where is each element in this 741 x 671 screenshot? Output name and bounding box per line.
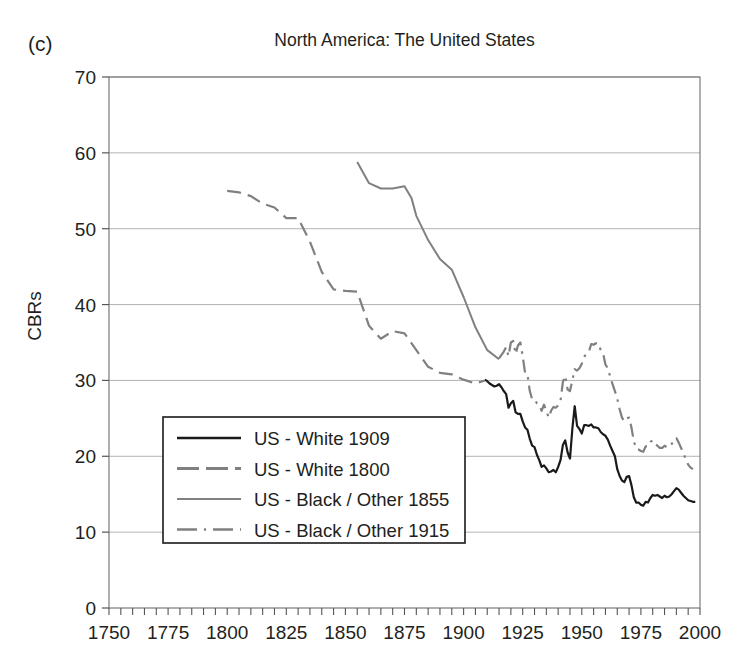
- x-tick-label: 1925: [502, 622, 544, 643]
- x-tick-label: 1875: [383, 622, 425, 643]
- line-chart: 010203040506070 175017751800182518501875…: [0, 0, 741, 671]
- series-line-3: [499, 341, 693, 469]
- y-tick-label: 20: [75, 446, 96, 467]
- x-tick-label: 1800: [206, 622, 248, 643]
- x-tick-label: 1775: [147, 622, 189, 643]
- legend-label-2: US - Black / Other 1855: [254, 489, 449, 510]
- x-tick-label: 1850: [324, 622, 366, 643]
- y-tick-label: 70: [75, 67, 96, 88]
- x-tick-label: 1825: [265, 622, 307, 643]
- x-tick-label: 1975: [620, 622, 662, 643]
- y-tick-label: 50: [75, 219, 96, 240]
- x-tick-label: 1900: [442, 622, 484, 643]
- legend-label-3: US - Black / Other 1915: [254, 520, 449, 541]
- y-tick-label: 10: [75, 522, 96, 543]
- x-tick-label: 2000: [679, 622, 721, 643]
- series-line-2: [357, 162, 499, 359]
- legend-label-1: US - White 1800: [254, 459, 390, 480]
- y-tick-label: 40: [75, 295, 96, 316]
- y-tick-label: 60: [75, 143, 96, 164]
- y-tick-label: 30: [75, 370, 96, 391]
- series-line-1: [227, 191, 485, 384]
- x-axis-tick-labels: 1750177518001825185018751900192519501975…: [88, 622, 721, 643]
- figure-container: (c) North America: The United States CBR…: [0, 0, 741, 671]
- x-tick-label: 1750: [88, 622, 130, 643]
- legend-label-0: US - White 1909: [254, 428, 390, 449]
- chart-legend: US - White 1909US - White 1800US - Black…: [163, 417, 465, 543]
- y-tick-label: 0: [85, 598, 96, 619]
- x-tick-label: 1950: [561, 622, 603, 643]
- y-axis-tick-labels: 010203040506070: [75, 67, 96, 619]
- series-line-0: [485, 380, 695, 506]
